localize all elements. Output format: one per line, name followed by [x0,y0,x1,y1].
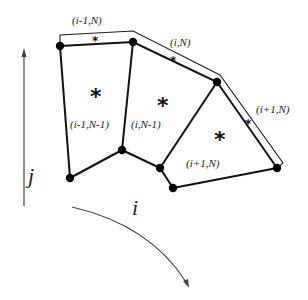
cell-center-i-1-N-1: * [90,84,102,109]
strip-label-i-1-N: (i-1,N) [72,14,102,27]
node [129,38,137,46]
cell-label-i-1-N-1: (i-1,N-1) [70,118,109,131]
strip-annotations: (i-1,N) * (i,N) * (i+1,N) * [72,14,290,131]
cell-center-i-N-1: * [157,93,169,118]
strip-marker-i-1-N: * [92,34,99,48]
cell-label-i-N-1: (i,N-1) [131,118,161,131]
node [66,174,74,182]
j-axis-arrowhead-icon [22,48,27,57]
i-axis-label: i [132,195,138,220]
j-axis: j [22,48,35,206]
strip-marker-i+1-N: * [245,117,252,131]
cell-annotations: * (i-1,N-1) * (i,N-1) * (i+1,N) [70,84,226,170]
cell-label-i+1-N: (i+1,N) [186,157,220,170]
node [118,146,126,154]
cell-center-i+1-N: * [214,127,226,152]
j-axis-label: j [25,163,34,188]
i-axis: i [72,195,189,288]
strip-label-i+1-N: (i+1,N) [256,103,290,116]
node [56,42,64,50]
i-axis-arrowhead-icon [183,279,189,288]
strip-marker-i-N: * [170,54,177,68]
node [156,164,164,172]
node [273,164,281,172]
grid-cell-diagram: j i (i-1,N) * (i,N [0,0,308,300]
node [169,184,177,192]
strip-label-i-N: (i,N) [170,36,191,49]
node [213,78,221,86]
